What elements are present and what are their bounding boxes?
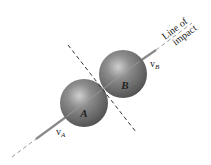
velocity-a-label: vA [56, 126, 66, 139]
velocity-b-label: vB [150, 58, 160, 71]
impact-diagram: A B vA vB Line of impact [0, 0, 211, 165]
sphere-a-label: A [79, 107, 87, 119]
line-of-impact-label: Line of impact [160, 13, 199, 50]
sphere-b-label: B [120, 79, 128, 91]
